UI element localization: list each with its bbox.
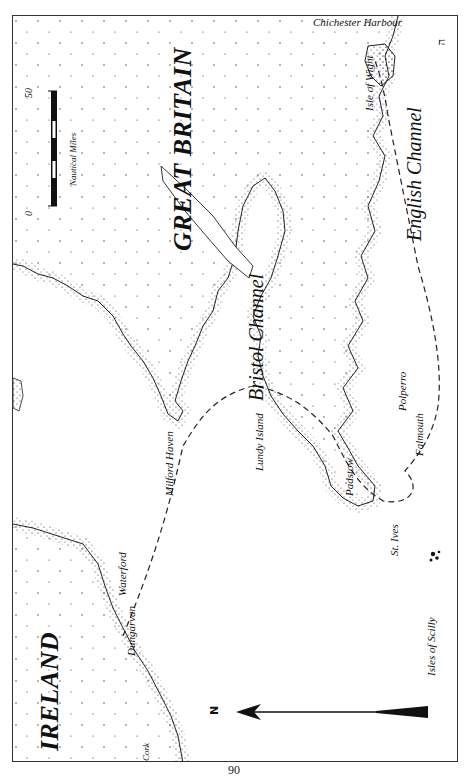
polperro-label: Polperro — [396, 372, 408, 411]
milford-haven-label: Milford Haven — [163, 431, 175, 496]
page-number: 90 — [0, 763, 468, 776]
ireland-label: IRELAND — [35, 632, 65, 751]
isle-of-wight-label: Isle of Wight — [363, 55, 375, 111]
chichester-harbour-label: Chichester Harbour — [313, 16, 402, 28]
scale-unit-label: Nautical Miles — [68, 133, 78, 186]
st-ives-label: St. Ives — [388, 524, 400, 556]
bristol-channel-label: Bristol Channel — [245, 274, 268, 401]
map-frame: GREAT BRITAIN IRELAND English Channel Br… — [12, 15, 458, 762]
isles-of-scilly-label: Isles of Scilly — [425, 617, 437, 676]
corner-mark: ה — [435, 39, 447, 45]
lundy-island-label: Lundy Island — [253, 413, 265, 471]
scale-max-label: 50 — [23, 88, 34, 98]
great-britain-land — [13, 16, 398, 506]
scale-min-label: 0 — [23, 211, 34, 216]
great-britain-label: GREAT BRITAIN — [168, 47, 198, 251]
padstow-label: Padstow — [343, 458, 355, 496]
cork-label: Cork — [141, 743, 151, 761]
english-channel-label: English Channel — [403, 107, 426, 241]
waterford-label: Waterford — [116, 552, 128, 596]
north-label: N — [208, 706, 221, 715]
falmouth-label: Falmouth — [413, 413, 425, 456]
dungarvan-label: Dungarvan — [125, 606, 137, 656]
isles-of-scilly-dots — [430, 551, 441, 562]
map-drawing — [13, 16, 458, 762]
north-arrow — [236, 704, 428, 720]
